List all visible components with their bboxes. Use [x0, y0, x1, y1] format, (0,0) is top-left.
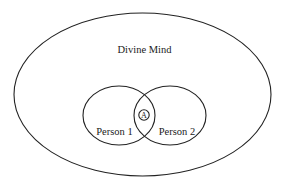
intersection-a: A	[139, 110, 149, 120]
divine-mind-region: Divine Mind	[14, 13, 271, 176]
person-1-label: Person 1	[96, 126, 132, 137]
person-2-label: Person 2	[159, 126, 195, 137]
outer-ellipse	[14, 13, 271, 176]
intersection-a-label: A	[141, 111, 147, 120]
venn-diagram: Divine Mind Person 1 Person 2 A	[0, 0, 285, 186]
divine-mind-label: Divine Mind	[118, 44, 173, 55]
